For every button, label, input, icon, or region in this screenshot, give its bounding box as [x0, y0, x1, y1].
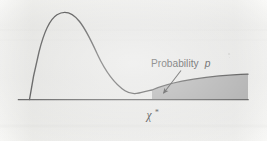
critical-value-superscript: *	[154, 108, 158, 117]
critical-value-label: χ *	[146, 108, 159, 123]
critical-value-symbol: χ	[146, 109, 153, 122]
distribution-plot: Probability p χ *	[0, 0, 267, 141]
probability-label-text: Probability	[151, 58, 199, 69]
probability-label: Probability p	[151, 58, 211, 69]
chi-square-distribution-figure: Probability p χ *	[0, 0, 267, 141]
probability-label-symbol: p	[204, 58, 211, 69]
